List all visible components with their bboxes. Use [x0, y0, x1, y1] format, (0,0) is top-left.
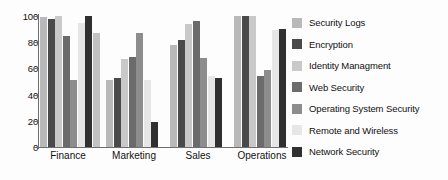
- bar-group: [170, 16, 223, 147]
- bar: [55, 16, 62, 147]
- bar: [144, 80, 151, 147]
- legend-swatch-icon: [292, 18, 302, 28]
- bar: [136, 33, 143, 147]
- bar: [200, 58, 207, 147]
- legend-item: Encryption: [292, 34, 448, 56]
- bar: [279, 29, 286, 147]
- plot-area: [38, 16, 286, 147]
- legend-item: Remote and Wireless: [292, 120, 448, 142]
- bar: [249, 16, 256, 147]
- bar: [264, 70, 271, 147]
- legend-item: Web Security: [292, 77, 448, 99]
- bar: [78, 23, 85, 147]
- bar-chart: 100806040200 FinanceMarketingSalesOperat…: [0, 0, 448, 180]
- x-axis-label-operations: Operations: [228, 150, 296, 161]
- bar: [151, 122, 158, 147]
- bar: [234, 16, 241, 147]
- x-axis-label-sales: Sales: [164, 150, 232, 161]
- bar: [85, 16, 92, 147]
- legend-label: Security Logs: [309, 17, 365, 28]
- bar: [257, 76, 264, 147]
- bar: [106, 80, 113, 147]
- x-axis-label-marketing: Marketing: [100, 150, 168, 161]
- bar-group: [234, 16, 287, 147]
- bar: [129, 57, 136, 147]
- legend-swatch-icon: [292, 39, 302, 49]
- legend-item: Security Logs: [292, 12, 448, 34]
- legend-item: Operating System Security: [292, 98, 448, 120]
- bar: [40, 17, 47, 147]
- legend-swatch-icon: [292, 147, 302, 157]
- bar: [193, 21, 200, 147]
- legend-label: Remote and Wireless: [309, 125, 398, 136]
- bar: [208, 76, 215, 147]
- chart-legend: Security LogsEncryptionIdentity Managmen…: [292, 12, 448, 163]
- legend-swatch-icon: [292, 104, 302, 114]
- bar: [93, 33, 100, 147]
- bar-group: [106, 16, 159, 147]
- legend-label: Network Security: [309, 146, 379, 157]
- legend-swatch-icon: [292, 125, 302, 135]
- legend-item: Identity Managment: [292, 55, 448, 77]
- legend-swatch-icon: [292, 82, 302, 92]
- legend-label: Web Security: [309, 82, 364, 93]
- bar: [272, 30, 279, 147]
- x-axis-line: [38, 147, 288, 148]
- bar: [215, 78, 222, 147]
- bar: [242, 16, 249, 147]
- legend-label: Identity Managment: [309, 60, 391, 71]
- x-axis-label-finance: Finance: [34, 150, 102, 161]
- bar: [70, 80, 77, 147]
- legend-item: Network Security: [292, 141, 448, 163]
- bar: [185, 24, 192, 147]
- legend-label: Encryption: [309, 39, 353, 50]
- legend-swatch-icon: [292, 61, 302, 71]
- legend-label: Operating System Security: [309, 103, 420, 114]
- bar: [178, 40, 185, 147]
- bar: [121, 59, 128, 147]
- bar: [170, 45, 177, 147]
- bar: [63, 36, 70, 147]
- bar: [114, 78, 121, 147]
- y-axis-tick-mark: [34, 147, 38, 148]
- bar-group: [40, 16, 100, 147]
- bar: [48, 19, 55, 147]
